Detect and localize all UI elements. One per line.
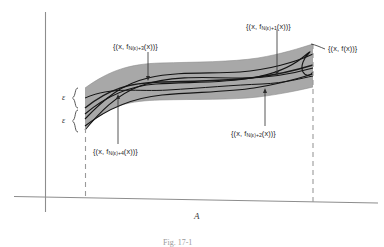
label-f-n4-prefix: {(x, f [93,147,108,156]
label-f-n2-prefix: {(x, f [231,129,246,138]
label-f-limit: {(x, f(x))} [328,44,357,53]
horizontal-axis [14,197,378,204]
label-f-n2: {(x, fN(ε)+2(x))} [231,129,276,138]
epsilon-label-lower: ε [62,116,65,125]
label-f-n3: {(x, fN(ε)+3(x))} [113,42,158,51]
label-f-n1-suffix: (x))} [277,22,291,31]
label-f-n4-subscript: N(ε)+4 [108,150,123,156]
label-f-n1: {(x, fN(ε)+1(x))} [246,22,291,31]
label-f-n2-subscript: N(ε)+2 [246,132,261,138]
label-f-n3-suffix: (x))} [144,42,158,51]
epsilon-band [85,44,313,128]
epsilon-label-upper: ε [62,93,65,102]
label-f-n4: {(x, fN(ε)+4(x))} [93,147,138,156]
epsilon-brace-upper [73,88,79,108]
label-f-n1-prefix: {(x, f [246,22,261,31]
label-f-n4-suffix: (x))} [124,147,138,156]
figure-caption: Fig. 17-1 [163,238,192,247]
label-f-n3-subscript: N(ε)+3 [128,45,143,51]
label-f-n3-prefix: {(x, f [113,42,128,51]
label-f-limit-text: {(x, f(x))} [328,44,357,53]
epsilon-brace-lower [73,110,79,132]
label-f-n1-subscript: N(ε)+1 [261,25,276,31]
interval-label-a: A [194,211,200,221]
label-f-n2-suffix: (x))} [262,129,276,138]
